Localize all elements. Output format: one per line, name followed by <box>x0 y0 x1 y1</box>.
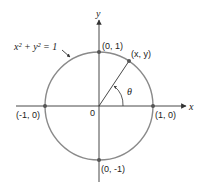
y-axis-label: y <box>95 8 101 19</box>
unit-circle-diagram: y x x² + y² = 1 (0, 1) (x, y) (-1, 0) (1… <box>0 0 201 188</box>
point-xy <box>127 59 131 63</box>
angle-arc <box>114 86 123 106</box>
equation-label: x² + y² = 1 <box>13 41 57 52</box>
label-right: (1, 0) <box>155 110 176 120</box>
radius-line <box>99 61 129 106</box>
point-bottom <box>97 158 101 162</box>
point-right <box>151 104 155 108</box>
label-bottom: (0, -1) <box>101 164 125 174</box>
point-left <box>43 104 47 108</box>
equation-pointer <box>62 50 70 57</box>
label-left: (-1, 0) <box>16 110 40 120</box>
label-xy: (x, y) <box>131 49 151 59</box>
origin-label: 0 <box>90 108 95 118</box>
point-top <box>97 50 101 54</box>
x-axis-label: x <box>188 101 194 112</box>
angle-label: θ <box>127 86 132 97</box>
label-top: (0, 1) <box>102 41 123 51</box>
